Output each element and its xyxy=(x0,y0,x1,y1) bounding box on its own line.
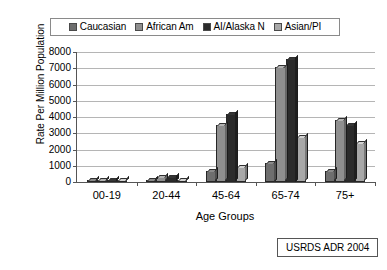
y-axis-tick-label: 6000 xyxy=(49,80,71,90)
bar-side-face xyxy=(354,121,357,181)
bar xyxy=(117,180,127,182)
chart-legend: CaucasianAfrican AmAI/Alaska NAsian/PI xyxy=(50,18,340,36)
legend-swatch-icon xyxy=(69,23,77,31)
bar-group-65-74 xyxy=(256,52,316,182)
y-axis-tick-label: 0 xyxy=(65,177,71,187)
x-axis-tick-mark xyxy=(196,182,197,186)
x-axis-tick-label: 20-44 xyxy=(152,190,180,201)
bar xyxy=(97,180,107,182)
legend-item-ai-alaska-n[interactable]: AI/Alaska N xyxy=(203,22,265,32)
legend-item-african-am[interactable]: African Am xyxy=(135,22,193,32)
bar xyxy=(87,180,97,182)
x-axis-tick-mark xyxy=(315,182,316,186)
x-axis-tick-mark xyxy=(256,182,257,186)
legend-item-asian-pi[interactable]: Asian/PI xyxy=(274,22,321,32)
legend-item-label: Asian/PI xyxy=(285,22,321,32)
y-axis-title: Rate Per Million Population xyxy=(35,19,47,149)
bar xyxy=(107,180,117,182)
y-axis-tick-label: 7000 xyxy=(49,63,71,73)
x-axis-tick-mark xyxy=(375,182,376,186)
y-axis-tick-label: 8000 xyxy=(49,47,71,57)
bar-group-45-64 xyxy=(196,52,256,182)
bar-group-75 xyxy=(315,52,375,182)
bar-chart: CaucasianAfrican AmAI/Alaska NAsian/PI R… xyxy=(0,0,387,270)
bar-side-face xyxy=(295,55,298,182)
bar-side-face xyxy=(285,63,288,181)
y-axis-tick-label: 5000 xyxy=(49,96,71,106)
source-annotation: USRDS ADR 2004 xyxy=(277,238,378,257)
bar xyxy=(206,171,216,182)
y-axis-tick-label: 4000 xyxy=(49,112,71,122)
bar xyxy=(177,180,187,182)
x-axis-tick-label: 00-19 xyxy=(93,190,121,201)
legend-swatch-icon xyxy=(274,23,282,31)
bars-layer: 00-1920-4445-6465-7475+ xyxy=(77,52,375,182)
bar-side-face xyxy=(305,133,308,181)
x-axis-title: Age Groups xyxy=(76,210,374,222)
legend-item-label: AI/Alaska N xyxy=(214,22,265,32)
bar-side-face xyxy=(344,116,347,181)
bar-side-face xyxy=(186,176,189,181)
bar xyxy=(265,163,275,183)
bar-side-face xyxy=(364,139,367,181)
bar-side-face xyxy=(245,163,248,181)
y-axis-tick-label: 2000 xyxy=(49,145,71,155)
bar-side-face xyxy=(235,110,238,181)
x-axis-tick-label: 45-64 xyxy=(212,190,240,201)
legend-swatch-icon xyxy=(203,23,211,31)
bar xyxy=(146,180,156,182)
legend-item-caucasian[interactable]: Caucasian xyxy=(69,22,126,32)
bar xyxy=(325,171,335,182)
legend-swatch-icon xyxy=(135,23,143,31)
y-axis-tick-label: 3000 xyxy=(49,128,71,138)
x-axis-tick-label: 75+ xyxy=(336,190,355,201)
x-axis-tick-mark xyxy=(137,182,138,186)
bar-group-20-44 xyxy=(137,52,197,182)
bar-group-00-19 xyxy=(77,52,137,182)
legend-item-label: African Am xyxy=(146,22,193,32)
legend-item-label: Caucasian xyxy=(80,22,126,32)
x-axis-tick-label: 65-74 xyxy=(272,190,300,201)
bar-side-face xyxy=(225,121,228,181)
bar-side-face xyxy=(215,167,218,181)
plot-area: 010002000300040005000600070008000 00-192… xyxy=(76,52,375,183)
y-axis-tick-mark xyxy=(73,182,77,183)
y-axis-tick-label: 1000 xyxy=(49,161,71,171)
